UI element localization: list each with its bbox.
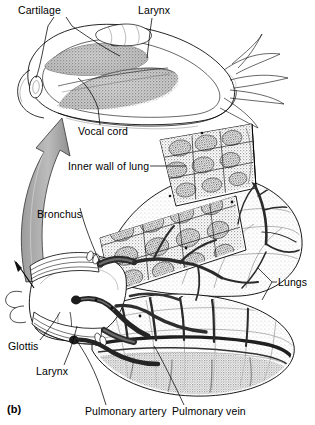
upper-lung <box>98 120 302 298</box>
label-pulmonary-vein: Pulmonary vein <box>172 406 246 417</box>
label-glottis: Glottis <box>8 341 38 352</box>
label-larynx-top: Larynx <box>138 5 170 16</box>
label-inner-wall-of-lung: Inner wall of lung <box>68 161 149 172</box>
label-lungs: Lungs <box>278 277 307 288</box>
respiratory-anatomy-figure: Cartilage Larynx Vocal cord Inner wall o… <box>0 0 315 425</box>
label-vocal-cord: Vocal cord <box>78 126 128 137</box>
label-pulmonary-artery: Pulmonary artery <box>85 406 167 417</box>
label-cartilage: Cartilage <box>18 5 61 16</box>
label-larynx-bottom: Larynx <box>36 366 68 377</box>
larynx-enlargement <box>18 24 288 129</box>
label-bronchus: Bronchus <box>37 209 82 220</box>
panel-identifier: (b) <box>7 404 21 415</box>
